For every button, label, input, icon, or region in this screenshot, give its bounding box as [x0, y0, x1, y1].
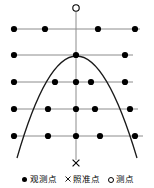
observation-point [127, 106, 133, 112]
open-dot-icon [107, 175, 115, 183]
observation-point [52, 79, 58, 85]
observation-point [122, 52, 128, 58]
observation-point [42, 26, 48, 32]
observation-point [97, 133, 103, 139]
sighting-point-marker [73, 160, 80, 167]
observation-point [95, 26, 101, 32]
observation-point [73, 106, 79, 112]
observation-point [73, 133, 79, 139]
observation-point [45, 133, 51, 139]
legend-label-observation-point: 观测点 [30, 175, 57, 184]
observation-point [11, 52, 17, 58]
observation-point [11, 26, 17, 32]
legend-label-sighting-point: 照准点 [73, 175, 100, 184]
legend-label-measurement-point: 测点 [116, 175, 134, 184]
cross-icon [64, 175, 72, 183]
observation-point [11, 106, 17, 112]
observation-point [122, 79, 128, 85]
observation-point [11, 79, 17, 85]
observation-point [73, 52, 79, 58]
legend-entry-observation-point: 观测点 [21, 175, 57, 184]
filled-dot-icon [21, 175, 29, 183]
observation-point [132, 26, 138, 32]
observation-point [73, 79, 79, 85]
observation-point [45, 106, 51, 112]
figure-container: 观测点 照准点 测点 [0, 0, 154, 188]
measurement-point-marker [73, 5, 79, 11]
observation-point [88, 79, 94, 85]
observation-point [92, 106, 98, 112]
observation-point [11, 133, 17, 139]
legend-entry-sighting-point: 照准点 [64, 175, 100, 184]
observation-point [132, 133, 138, 139]
legend: 观测点 照准点 测点 [0, 170, 154, 188]
monitoring-point-diagram [0, 0, 154, 168]
legend-entry-measurement-point: 测点 [107, 175, 134, 184]
